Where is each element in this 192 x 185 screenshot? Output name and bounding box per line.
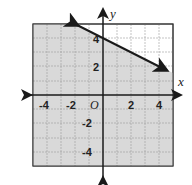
coordinate-plane: y x O -4 -2 2 4 4 2 -2 -4 [0, 0, 192, 185]
y-tick-label: 4 [93, 33, 100, 45]
x-tick-label: -4 [39, 99, 50, 111]
x-tick-label: 2 [128, 99, 134, 111]
x-tick-label: 4 [156, 99, 163, 111]
y-tick-label: 2 [93, 61, 99, 73]
y-tick-label: -2 [82, 117, 92, 129]
origin-label: O [90, 98, 99, 112]
x-tick-label: -2 [66, 99, 76, 111]
y-axis-label: y [108, 6, 116, 21]
y-tick-label: -4 [82, 146, 93, 158]
x-axis-label: x [177, 74, 184, 89]
